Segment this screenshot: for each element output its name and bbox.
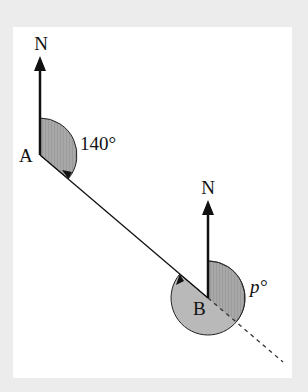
line-ab <box>40 155 208 298</box>
angle-label-a: 140° <box>80 133 116 154</box>
point-label-a: A <box>19 145 33 166</box>
point-label-b: B <box>193 298 206 319</box>
bearing-diagram: N N A B 140° p° <box>0 0 308 392</box>
north-label-b: N <box>201 177 215 198</box>
angle-label-b: p° <box>248 276 268 297</box>
north-label-a: N <box>34 33 48 54</box>
angle-sector-a <box>40 118 77 179</box>
